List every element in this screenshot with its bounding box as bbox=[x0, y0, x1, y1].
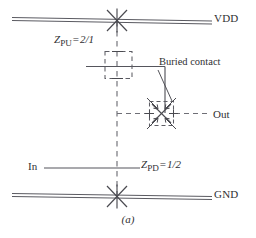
output-label: Out bbox=[213, 109, 230, 120]
depletion-implant-box bbox=[105, 52, 132, 79]
vdd-label: VDD bbox=[214, 13, 238, 24]
pull-down-equals: = bbox=[159, 158, 167, 170]
figure-root: VDD GND Out In Buried contact ZPU=2/1 ZP… bbox=[0, 0, 256, 238]
pull-down-value: 1/2 bbox=[167, 158, 181, 170]
pull-down-subscript: PD bbox=[147, 163, 159, 173]
gnd-label: GND bbox=[214, 189, 238, 200]
buried-contact-icon bbox=[145, 98, 178, 129]
gnd-contact-x-icon bbox=[107, 185, 127, 209]
figure-caption: (a) bbox=[0, 214, 256, 225]
gnd-rail-line-upper bbox=[12, 194, 212, 197]
pull-up-ratio-label: ZPU=2/1 bbox=[54, 34, 94, 48]
pull-up-subscript: PU bbox=[60, 38, 72, 48]
vdd-rail bbox=[12, 18, 212, 25]
pull-up-value: 2/1 bbox=[80, 33, 94, 45]
buried-contact-label: Buried contact bbox=[159, 57, 221, 68]
vdd-contact-x-icon bbox=[107, 9, 127, 33]
gnd-rail-line-lower bbox=[12, 197, 212, 200]
pull-up-device bbox=[86, 52, 165, 79]
input-label: In bbox=[28, 161, 37, 172]
pull-up-equals: = bbox=[72, 33, 80, 45]
buried-contact-cross bbox=[152, 104, 171, 123]
gnd-rail bbox=[12, 194, 212, 200]
pull-down-ratio-label: ZPD=1/2 bbox=[141, 159, 181, 173]
